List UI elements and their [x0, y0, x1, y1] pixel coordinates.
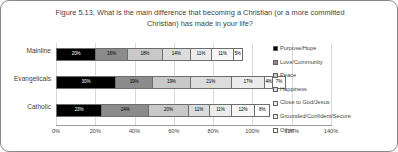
category-label: Catholic — [27, 104, 51, 111]
bar-row: Mainline20%16%18%14%11%11%5% — [56, 48, 243, 61]
bar-segment: 21% — [190, 76, 231, 89]
bar-segment-value: 17% — [244, 80, 253, 85]
legend-swatch-icon — [273, 101, 278, 106]
x-axis-tick-label: 20% — [90, 128, 101, 134]
bar-segment-value: 11% — [218, 52, 227, 57]
bar-segment-value: 24% — [121, 108, 130, 113]
x-axis-tick-label: 140% — [324, 128, 338, 134]
legend-label: Happiness — [280, 87, 307, 93]
bar-segment-value: 16% — [107, 52, 116, 57]
legend-swatch-icon — [273, 87, 278, 92]
x-axis-tick-label: 0% — [52, 128, 60, 134]
bar-segment: 24% — [101, 104, 148, 117]
figure-title: Figure 5.13, What is the main difference… — [41, 8, 359, 29]
bar-segment-value: 23% — [75, 108, 84, 113]
legend-item[interactable]: Love/Community — [273, 56, 393, 70]
legend-item[interactable]: Grounded/Confident/Secure — [273, 110, 393, 124]
bar-segment: 12% — [231, 104, 255, 117]
bar-segment: 16% — [95, 48, 126, 61]
bar-segment: 11% — [211, 48, 233, 61]
bar-segment-value: 11% — [197, 52, 206, 57]
bar-segment-value: 21% — [206, 80, 215, 85]
bar-segment: 8% — [254, 104, 270, 117]
bar-segment-value: 20% — [164, 108, 173, 113]
bar-row: Evangelicals30%19%19%21%17%4%7% — [56, 76, 286, 89]
bar-segment: 23% — [56, 104, 101, 117]
legend-item[interactable]: Close to God/Jesus — [273, 96, 393, 110]
bar-segment-value: 30% — [82, 80, 91, 85]
bar-segment: 19% — [152, 76, 189, 89]
bar-segment: 11% — [188, 104, 210, 117]
legend-swatch-icon — [273, 60, 278, 65]
bar-segment-value: 20% — [72, 52, 81, 57]
bar-segment-value: 4% — [265, 80, 271, 85]
bar-segment: 14% — [162, 48, 190, 61]
chart-legend: Purpose/HopeLove/CommunityPeaceHappiness… — [273, 42, 393, 137]
legend-swatch-icon — [273, 128, 278, 133]
bar-segment: 11% — [209, 104, 231, 117]
legend-label: Purpose/Hope — [280, 46, 316, 52]
legend-swatch-icon — [273, 114, 278, 119]
legend-label: Peace — [280, 73, 296, 79]
bar-segment-value: 5% — [234, 52, 240, 57]
legend-item[interactable]: Purpose/Hope — [273, 42, 393, 56]
bar-segment: 20% — [148, 104, 187, 117]
bar-segment-value: 11% — [195, 108, 204, 113]
bar-segment: 20% — [56, 48, 95, 61]
bar-segment-value: 14% — [172, 52, 181, 57]
bar-segment: 30% — [56, 76, 115, 89]
legend-swatch-icon — [273, 46, 278, 51]
bar-segment-value: 12% — [239, 108, 248, 113]
x-axis-tick-label: 100% — [245, 128, 259, 134]
bar-segment-value: 19% — [130, 80, 139, 85]
bar-segment: 18% — [127, 48, 162, 61]
bar-segment-value: 8% — [259, 108, 265, 113]
figure-title-line-1: Figure 5.13, What is the main difference… — [55, 8, 308, 17]
bar-segment: 5% — [233, 48, 243, 61]
bar-row: Catholic23%24%20%11%11%12%8% — [56, 104, 270, 117]
bar-segment: 17% — [231, 76, 264, 89]
category-label: Mainline — [26, 48, 51, 55]
legend-swatch-icon — [273, 73, 278, 78]
legend-label: Grounded/Confident/Secure — [280, 114, 351, 120]
bar-segment-value: 11% — [216, 108, 225, 113]
category-label: Evangelicals — [14, 76, 51, 83]
bar-segment: 4% — [264, 76, 272, 89]
bar-segment: 11% — [190, 48, 212, 61]
x-axis-tick-label: 40% — [129, 128, 140, 134]
legend-item[interactable]: Peace — [273, 69, 393, 83]
bar-segment-value: 18% — [140, 52, 149, 57]
legend-label: Love/Community — [280, 60, 323, 66]
legend-label: Close to God/Jesus — [280, 100, 330, 106]
x-axis-tick-label: 60% — [168, 128, 179, 134]
figure-container: Figure 5.13, What is the main difference… — [0, 0, 398, 152]
legend-item[interactable]: Happiness — [273, 83, 393, 97]
bar-segment-value: 19% — [167, 80, 176, 85]
x-axis-tick-label: 120% — [285, 128, 299, 134]
bar-segment: 19% — [115, 76, 152, 89]
x-axis-tick-label: 80% — [208, 128, 219, 134]
